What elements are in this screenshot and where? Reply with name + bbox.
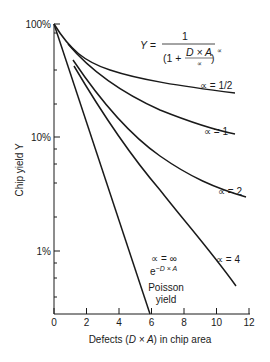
label-alpha-4: ∝ = 4 [216,254,240,265]
x-tick-10: 10 [211,317,223,328]
label-alpha-half: ∝ = 1/2 [200,80,233,91]
x-tick-12: 12 [243,317,255,328]
svg-text:(1 +: (1 + [163,52,181,64]
svg-text:1: 1 [182,30,188,42]
label-yield: yield [156,294,177,305]
label-alpha-1: ∝ = 1 [204,126,228,137]
svg-text:∝: ∝ [197,60,202,67]
y-tick-100: 100% [25,19,51,30]
label-alpha-inf: ∝ = ∞ [151,253,177,264]
y-tick-10: 10% [31,132,51,143]
label-alpha-2: ∝ = 2 [218,186,242,197]
x-tick-8: 8 [181,317,187,328]
y-axis-label: Chip yield Y [14,143,25,197]
yield-chart: 100% 10% 1% 0 2 4 6 8 10 12 Defects (D ×… [0,0,270,362]
x-tick-6: 6 [149,317,155,328]
formula: Y = 1 (1 + D × A ∝ ) ∝ [140,30,222,67]
label-poisson: Poisson [148,282,184,293]
svg-text:D × A: D × A [186,46,212,58]
svg-text:): ) [211,52,215,64]
label-exp: e−D × A [150,265,177,277]
svg-text:∝: ∝ [217,47,222,54]
x-tick-4: 4 [116,317,122,328]
svg-text:Y =: Y = [140,39,156,51]
y-tick-1: 1% [37,246,52,257]
x-tick-0: 0 [51,317,57,328]
x-axis-label: Defects (D × A) in chip area [89,334,212,345]
x-tick-2: 2 [84,317,90,328]
